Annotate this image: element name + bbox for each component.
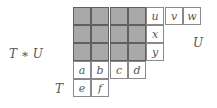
t-cell: b [91,61,109,79]
label-t: T [55,82,63,96]
t-cell: a [73,61,91,79]
shaded-cell [91,25,109,43]
shaded-cell [128,43,146,61]
shaded-cell [91,7,109,25]
u-cell: v [165,7,183,25]
t-cell: c [110,61,128,79]
shaded-cell [91,43,109,61]
shaded-cell [73,7,91,25]
u-cell: x [146,25,164,43]
t-cell: e [73,79,91,97]
t-cell: d [128,61,146,79]
shaded-cell [73,25,91,43]
shaded-cell [110,25,128,43]
u-cell: w [183,7,201,25]
u-cell: y [146,43,164,61]
shaded-cell [128,7,146,25]
shaded-cell [128,25,146,43]
t-cell: f [91,79,109,97]
label-u: U [193,36,203,50]
shaded-cell [73,43,91,61]
shaded-cell [110,7,128,25]
label-product: T ∗ U [9,47,43,61]
u-cell: u [146,7,164,25]
shaded-cell [110,43,128,61]
